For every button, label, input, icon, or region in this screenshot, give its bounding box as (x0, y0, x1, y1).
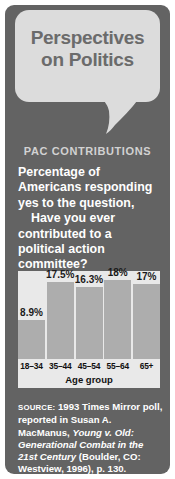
speech-bubble: Perspectives on Politics (5, 5, 170, 135)
x-axis-tick: 18–34 (18, 361, 45, 371)
bar-column: 8.9% (18, 271, 45, 359)
bar-chart: 8.9% 17.5% 16.3% 18% (18, 271, 160, 388)
perspectives-on-politics-figure: Perspectives on Politics PAC CONTRIBUTIO… (0, 0, 175, 479)
chart-bars: 8.9% 17.5% 16.3% 18% (18, 271, 160, 359)
speech-bubble-body: Perspectives on Politics (15, 10, 160, 102)
bar-column: 16.3% (76, 271, 103, 359)
caption-question: Have you ever contributed to a political… (18, 211, 160, 273)
x-axis-tick: 65+ (133, 361, 160, 371)
figure-title-line-2: on Politics (15, 49, 160, 71)
caption-lead: Percentage of Americans responding yes t… (18, 165, 152, 210)
section-kicker: PAC CONTRIBUTIONS (5, 145, 170, 157)
x-axis-tick: 45–54 (76, 361, 103, 371)
bar (104, 280, 131, 359)
bar-column: 18% (104, 271, 131, 359)
figure-title-line-1: Perspectives (15, 27, 160, 49)
bar-value-label: 17% (125, 271, 168, 282)
figure-title: Perspectives on Politics (15, 27, 160, 71)
bar (76, 287, 103, 359)
x-axis-tick: 55–64 (104, 361, 131, 371)
bar (133, 284, 160, 359)
chart-plot-area: 8.9% 17.5% 16.3% 18% (18, 271, 160, 359)
bar (18, 320, 45, 359)
chart-x-axis: 18–34 35–44 45–54 55–64 65+ (18, 359, 160, 373)
source-note: SOURCE: 1993 Times Mirror poll, reported… (18, 401, 164, 474)
source-label: SOURCE: (18, 403, 55, 412)
bar-column: 17% (133, 271, 160, 359)
bar (47, 282, 74, 359)
x-axis-title: Age group (18, 374, 160, 385)
figure-panel: Perspectives on Politics PAC CONTRIBUTIO… (5, 5, 170, 474)
x-axis-tick: 35–44 (47, 361, 74, 371)
figure-caption: Percentage of Americans responding yes t… (18, 165, 160, 273)
speech-bubble-tail-icon (101, 97, 137, 135)
